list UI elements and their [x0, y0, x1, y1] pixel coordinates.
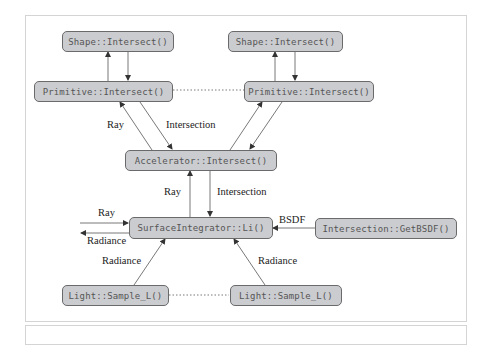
shape-intersect-node-2: Shape::Intersect() — [228, 31, 343, 52]
label-light1-radiance: Radiance — [102, 255, 141, 266]
primitive-intersect-node-2: Primitive::Intersect() — [244, 81, 374, 102]
light-sample-node-1: Light::Sample_L() — [62, 285, 169, 306]
get-bsdf-node: Intersection::GetBSDF() — [315, 218, 457, 239]
shape-intersect-node-1: Shape::Intersect() — [62, 31, 174, 52]
label-out-radiance: Radiance — [87, 235, 126, 246]
light-sample-node-2: Light::Sample_L() — [230, 285, 342, 306]
label-bsdf: BSDF — [279, 214, 305, 225]
primitive-intersect-node-1: Primitive::Intersect() — [34, 81, 173, 102]
label-prim-ray: Ray — [107, 119, 124, 130]
label-in-ray: Ray — [98, 207, 115, 218]
label-light2-radiance: Radiance — [258, 255, 297, 266]
surface-integrator-node: SurfaceIntegrator::Li() — [129, 217, 273, 239]
label-accel-ray: Ray — [164, 186, 181, 197]
accelerator-intersect-node: Accelerator::Intersect() — [125, 150, 277, 171]
label-accel-intersection: Intersection — [217, 186, 267, 197]
label-prim-intersection: Intersection — [166, 119, 216, 130]
